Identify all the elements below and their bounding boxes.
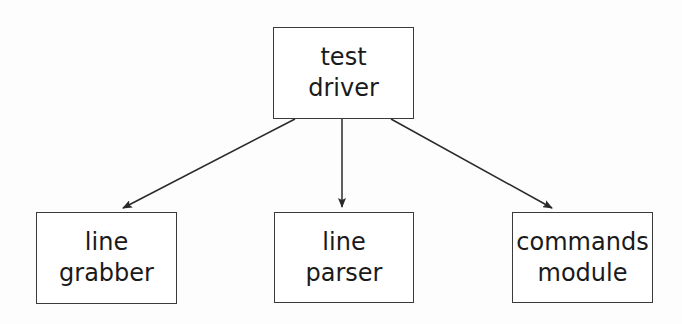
- node-test-driver: test driver: [273, 27, 414, 119]
- node-label-line-2: driver: [308, 73, 379, 104]
- node-line-parser: line parser: [274, 212, 414, 303]
- node-label-line-1: commands: [516, 227, 648, 258]
- node-label-line-1: line: [322, 227, 365, 258]
- node-label-line-2: module: [538, 258, 628, 289]
- arrow-test-driver-to-line-grabber: [123, 119, 295, 208]
- arrow-test-driver-to-commands-module: [391, 119, 552, 208]
- node-label-line-1: test: [320, 42, 366, 73]
- diagram-canvas: test driver line grabber line parser com…: [0, 0, 682, 324]
- node-label-line-2: parser: [306, 258, 383, 289]
- node-commands-module: commands module: [512, 212, 653, 303]
- node-label-line-2: grabber: [59, 258, 154, 289]
- node-label-line-1: line: [85, 227, 128, 258]
- node-line-grabber: line grabber: [36, 212, 177, 304]
